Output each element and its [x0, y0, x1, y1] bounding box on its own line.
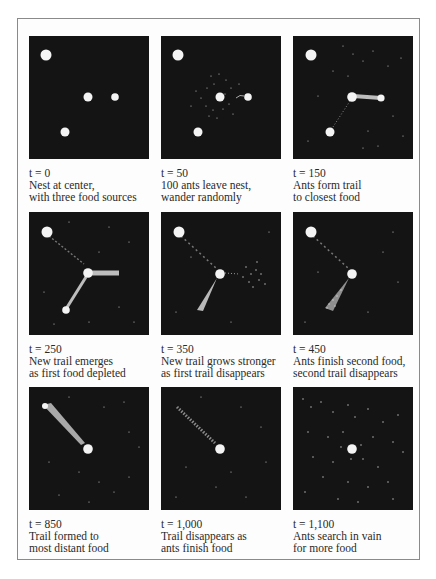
caption-line: Nest at center,	[29, 179, 179, 191]
caption-line: as first trail disappears	[161, 367, 311, 379]
time-label: t = 350	[161, 343, 311, 355]
panel-caption: t = 450 Ants finish second food, second …	[293, 343, 436, 380]
simulation-panel	[29, 36, 149, 159]
simulation-panel	[161, 387, 281, 510]
time-label: t = 250	[29, 343, 179, 355]
simulation-panel	[293, 212, 413, 335]
time-label: t = 50	[161, 167, 311, 179]
time-label: t = 150	[293, 167, 436, 179]
caption-line: Trail disappears as	[161, 530, 311, 542]
caption-line: New trail grows stronger	[161, 355, 311, 367]
panel-caption: t = 350 New trail grows stronger as firs…	[161, 343, 311, 380]
caption-line: ants finish food	[161, 542, 311, 554]
caption-line: Ants search in vain	[293, 530, 436, 542]
simulation-panel	[29, 212, 149, 335]
simulation-panel	[293, 387, 413, 510]
simulation-panel	[161, 212, 281, 335]
caption-line: for more food	[293, 542, 436, 554]
panel-caption: t = 50 100 ants leave nest, wander rando…	[161, 167, 311, 204]
time-label: t = 1,100	[293, 518, 436, 530]
time-label: t = 450	[293, 343, 436, 355]
panel-caption: t = 0 Nest at center, with three food so…	[29, 167, 179, 204]
panel-caption: t = 1,100 Ants search in vain for more f…	[293, 518, 436, 555]
panel-caption: t = 1,000 Trail disappears as ants finis…	[161, 518, 311, 555]
caption-line: Trail formed to	[29, 530, 179, 542]
caption-line: second trail disappears	[293, 367, 436, 379]
time-label: t = 1,000	[161, 518, 311, 530]
figure-frame: t = 0 Nest at center, with three food so…	[17, 18, 420, 560]
caption-line: with three food sources	[29, 191, 179, 203]
panel-caption: t = 850 Trail formed to most distant foo…	[29, 518, 179, 555]
caption-line: Ants form trail	[293, 179, 436, 191]
panel-caption: t = 250 New trail emerges as first food …	[29, 343, 179, 380]
simulation-panel	[293, 36, 413, 159]
caption-line: 100 ants leave nest,	[161, 179, 311, 191]
simulation-panel	[29, 387, 149, 510]
caption-line: New trail emerges	[29, 355, 179, 367]
caption-line: Ants finish second food,	[293, 355, 436, 367]
caption-line: most distant food	[29, 542, 179, 554]
caption-line: to closest food	[293, 191, 436, 203]
simulation-panel	[161, 36, 281, 159]
time-label: t = 0	[29, 167, 179, 179]
time-label: t = 850	[29, 518, 179, 530]
panel-caption: t = 150 Ants form trail to closest food	[293, 167, 436, 204]
caption-line: as first food depleted	[29, 367, 179, 379]
caption-line: wander randomly	[161, 191, 311, 203]
